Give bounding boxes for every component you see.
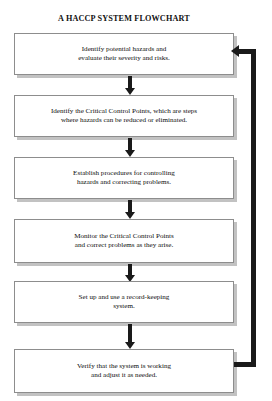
arrow-head <box>125 212 135 219</box>
flowchart-step-4-label: Monitor the Critical Control Points and … <box>68 232 180 250</box>
flowchart-step-3: Establish procedures for controlling haz… <box>14 157 234 199</box>
arrow-shaft <box>128 264 132 275</box>
arrow-head <box>125 150 135 157</box>
haccp-flowchart: A HACCP SYSTEM FLOWCHART Identify potent… <box>0 0 272 401</box>
arrow-down-icon-4 <box>125 264 135 282</box>
arrow-down-icon-2 <box>125 138 135 157</box>
arrow-shaft <box>128 138 132 150</box>
arrow-shaft <box>128 76 132 88</box>
flowchart-step-4: Monitor the Critical Control Points and … <box>14 219 234 263</box>
feedback-loop-top-segment <box>238 49 256 54</box>
arrow-shaft <box>128 324 132 342</box>
feedback-arrow-left-icon <box>231 45 239 57</box>
flowchart-step-3-label: Establish procedures for controlling haz… <box>67 169 181 187</box>
flowchart-step-2-label: Identify the Critical Control Points, wh… <box>45 107 203 125</box>
flowchart-title: A HACCP SYSTEM FLOWCHART <box>0 14 248 23</box>
arrow-down-icon-5 <box>125 324 135 349</box>
arrow-down-icon-1 <box>125 76 135 95</box>
arrow-head <box>125 342 135 349</box>
flowchart-step-6: Verify that the system is working and ad… <box>14 349 234 393</box>
arrow-shaft <box>128 200 132 212</box>
flowchart-step-5-label: Set up and use a record-keeping system. <box>73 293 176 311</box>
flowchart-step-1: Identify potential hazards and evaluate … <box>14 33 234 75</box>
arrow-head <box>125 88 135 95</box>
flowchart-step-2: Identify the Critical Control Points, wh… <box>14 95 234 137</box>
arrow-down-icon-3 <box>125 200 135 219</box>
feedback-loop-vertical-segment <box>251 49 256 367</box>
flowchart-step-5: Set up and use a record-keeping system. <box>14 281 234 323</box>
flowchart-step-6-label: Verify that the system is working and ad… <box>71 362 177 380</box>
flowchart-step-1-label: Identify potential hazards and evaluate … <box>72 45 176 63</box>
